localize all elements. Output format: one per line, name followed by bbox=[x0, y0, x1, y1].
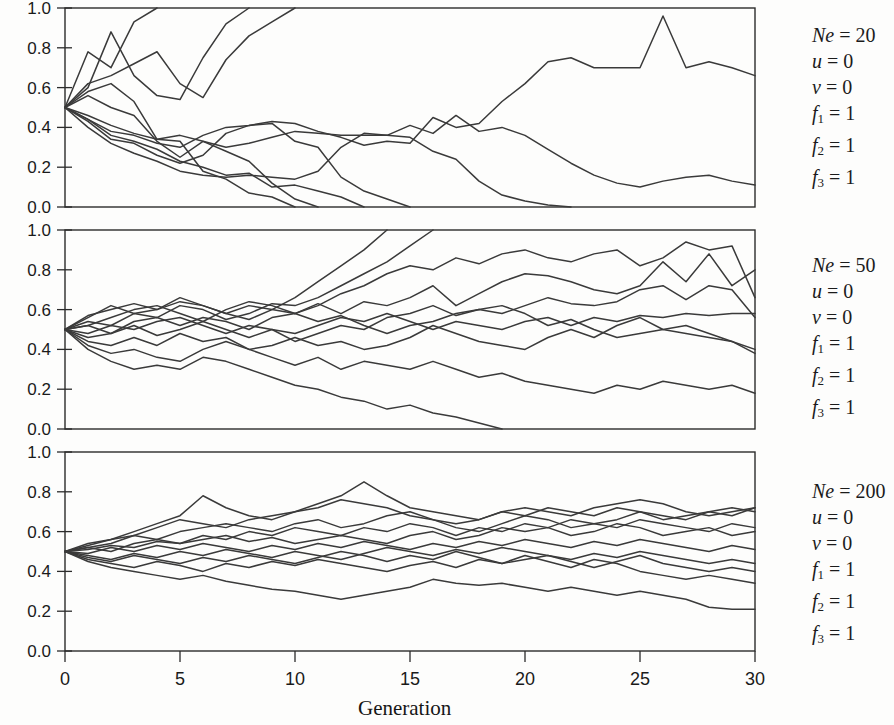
annotation-symbol: Ne bbox=[812, 254, 834, 276]
y-tick-label: 0.4 bbox=[27, 118, 51, 137]
annotation-symbol: v bbox=[812, 306, 821, 328]
annotation-value: = 0 bbox=[821, 532, 852, 554]
panel-frame bbox=[65, 8, 755, 207]
x-tick-label: 10 bbox=[285, 669, 305, 689]
annotation-value: = 200 bbox=[834, 480, 885, 502]
x-tick-label: 30 bbox=[745, 669, 765, 689]
annotation-value: = 1 bbox=[824, 396, 855, 418]
y-tick-label: 0.6 bbox=[27, 301, 51, 320]
panel-annotation-ne-200: Ne = 200u = 0v = 0f1 = 1f2 = 1f3 = 1 bbox=[812, 478, 886, 652]
annotation-line: f2 = 1 bbox=[812, 132, 876, 164]
annotation-value: = 1 bbox=[824, 134, 855, 156]
trajectory-line bbox=[65, 16, 755, 147]
annotation-line: u = 0 bbox=[812, 48, 876, 74]
annotation-symbol: u bbox=[812, 506, 822, 528]
annotation-symbol: u bbox=[812, 50, 822, 72]
annotation-line: v = 0 bbox=[812, 530, 886, 556]
annotation-line: f3 = 1 bbox=[812, 620, 886, 652]
panel-annotation-ne-20: Ne = 20u = 0v = 0f1 = 1f2 = 1f3 = 1 bbox=[812, 22, 876, 196]
y-tick-label: 0.0 bbox=[27, 642, 51, 661]
y-tick-label: 1.0 bbox=[27, 443, 51, 462]
x-tick-label: 15 bbox=[400, 669, 420, 689]
annotation-value: = 1 bbox=[824, 558, 855, 580]
annotation-line: f3 = 1 bbox=[812, 164, 876, 196]
y-tick-label: 0.8 bbox=[27, 261, 51, 280]
annotation-value: = 0 bbox=[822, 280, 853, 302]
annotation-line: f1 = 1 bbox=[812, 330, 876, 362]
x-axis: 051015202530 bbox=[60, 651, 765, 689]
x-tick-label: 25 bbox=[630, 669, 650, 689]
y-tick-label: 0.0 bbox=[27, 420, 51, 439]
annotation-line: f1 = 1 bbox=[812, 100, 876, 132]
annotation-symbol: Ne bbox=[812, 24, 834, 46]
trajectory-line bbox=[65, 306, 755, 354]
annotation-value: = 50 bbox=[834, 254, 875, 276]
panel-ne-50: 0.00.20.40.60.81.0 bbox=[27, 221, 755, 439]
y-tick-label: 1.0 bbox=[27, 0, 51, 18]
annotation-value: = 1 bbox=[824, 622, 855, 644]
trajectory-line bbox=[65, 108, 410, 208]
y-tick-label: 1.0 bbox=[27, 221, 51, 240]
trajectory-line bbox=[65, 230, 387, 330]
annotation-line: f3 = 1 bbox=[812, 394, 876, 426]
y-tick-label: 0.6 bbox=[27, 79, 51, 98]
annotation-value: = 20 bbox=[834, 24, 875, 46]
annotation-symbol: v bbox=[812, 76, 821, 98]
y-tick-label: 0.6 bbox=[27, 523, 51, 542]
panel-ne-20: 0.00.20.40.60.81.0 bbox=[27, 0, 755, 217]
annotation-value: = 1 bbox=[824, 364, 855, 386]
annotation-line: f2 = 1 bbox=[812, 362, 876, 394]
panel-ne-200: 0.00.20.40.60.81.0 bbox=[27, 443, 755, 661]
annotation-value: = 0 bbox=[822, 506, 853, 528]
plot-canvas: 0.00.20.40.60.81.00.00.20.40.60.81.00.00… bbox=[0, 0, 894, 725]
annotation-line: f2 = 1 bbox=[812, 588, 886, 620]
y-tick-label: 0.4 bbox=[27, 340, 51, 359]
trajectory-line bbox=[65, 8, 295, 108]
y-tick-label: 0.2 bbox=[27, 158, 51, 177]
trajectory-line bbox=[65, 330, 502, 430]
trajectory-line bbox=[65, 508, 755, 552]
annotation-value: = 0 bbox=[821, 306, 852, 328]
y-tick-label: 0.4 bbox=[27, 562, 51, 581]
annotation-value: = 1 bbox=[824, 332, 855, 354]
annotation-value: = 1 bbox=[824, 102, 855, 124]
y-tick-label: 0.8 bbox=[27, 483, 51, 502]
x-tick-label: 5 bbox=[175, 669, 185, 689]
trajectory-line bbox=[65, 318, 755, 350]
trajectory-line bbox=[65, 96, 318, 207]
x-axis-label: Generation bbox=[358, 696, 451, 721]
panel-annotation-ne-50: Ne = 50u = 0v = 0f1 = 1f2 = 1f3 = 1 bbox=[812, 252, 876, 426]
annotation-value: = 1 bbox=[824, 166, 855, 188]
annotation-line: Ne = 50 bbox=[812, 252, 876, 278]
trajectory-line bbox=[65, 8, 249, 108]
annotation-symbol: u bbox=[812, 280, 822, 302]
annotation-line: u = 0 bbox=[812, 278, 876, 304]
annotation-symbol: Ne bbox=[812, 480, 834, 502]
annotation-symbol: v bbox=[812, 532, 821, 554]
x-tick-label: 0 bbox=[60, 669, 70, 689]
annotation-line: v = 0 bbox=[812, 74, 876, 100]
y-tick-label: 0.0 bbox=[27, 198, 51, 217]
annotation-line: v = 0 bbox=[812, 304, 876, 330]
trajectory-line bbox=[65, 552, 755, 584]
annotation-line: f1 = 1 bbox=[812, 556, 886, 588]
trajectory-line bbox=[65, 108, 755, 188]
y-tick-label: 0.8 bbox=[27, 39, 51, 58]
annotation-line: u = 0 bbox=[812, 504, 886, 530]
y-tick-label: 0.2 bbox=[27, 380, 51, 399]
annotation-line: Ne = 200 bbox=[812, 478, 886, 504]
panel-frame bbox=[65, 230, 755, 429]
annotation-value: = 0 bbox=[822, 50, 853, 72]
annotation-line: Ne = 20 bbox=[812, 22, 876, 48]
x-tick-label: 20 bbox=[515, 669, 535, 689]
y-tick-label: 0.2 bbox=[27, 602, 51, 621]
annotation-value: = 1 bbox=[824, 590, 855, 612]
genetic-drift-figure: 0.00.20.40.60.81.00.00.20.40.60.81.00.00… bbox=[0, 0, 894, 725]
annotation-value: = 0 bbox=[821, 76, 852, 98]
trajectory-line bbox=[65, 108, 364, 208]
